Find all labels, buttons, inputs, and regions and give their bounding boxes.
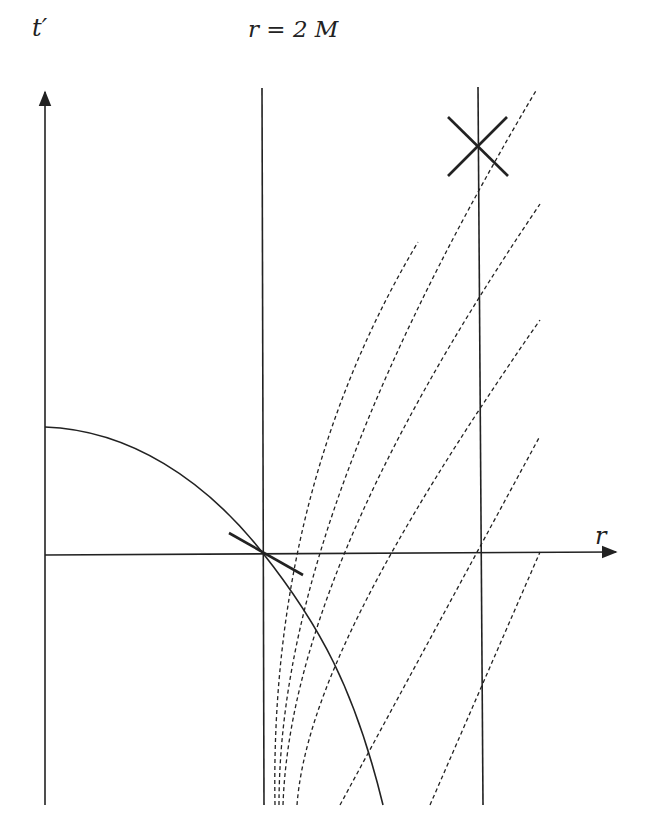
horizon-line [262, 88, 264, 805]
infalling-worldline-curve [45, 427, 383, 805]
r-axis-label: r [595, 522, 606, 550]
outgoing-null-lines [340, 436, 540, 805]
diagram-canvas [0, 0, 649, 813]
ingoing-null-curves [275, 89, 540, 805]
outer-worldline [478, 87, 483, 805]
r-axis [45, 552, 616, 555]
horizon-label: r = 2 M [248, 16, 338, 42]
t-prime-axis-label: t′ [32, 14, 47, 42]
